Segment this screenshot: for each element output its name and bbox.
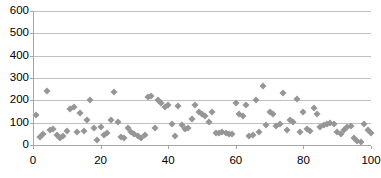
x-tick-label: 40 — [162, 155, 175, 166]
x-tick-label: 0 — [30, 155, 36, 166]
x-tick-label: 60 — [229, 155, 242, 166]
x-tick-label: 100 — [361, 155, 380, 166]
y-tick-mark — [30, 56, 33, 57]
y-tick-mark — [30, 123, 33, 124]
x-tick-mark — [101, 146, 102, 149]
y-tick-mark — [30, 78, 33, 79]
x-tick-mark — [236, 146, 237, 149]
x-tick-mark — [303, 146, 304, 149]
x-tick-mark — [168, 146, 169, 149]
y-tick-mark — [30, 33, 33, 34]
x-tick-label: 20 — [94, 155, 107, 166]
y-tick-mark — [30, 100, 33, 101]
x-tick-mark — [33, 146, 34, 149]
y-tick-mark — [30, 11, 33, 12]
x-tick-mark — [371, 146, 372, 149]
x-tick-label: 80 — [297, 155, 310, 166]
